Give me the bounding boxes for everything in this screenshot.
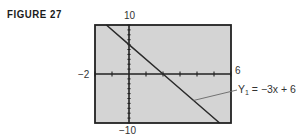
plot-area — [95, 25, 237, 123]
graph-screen — [0, 0, 304, 139]
